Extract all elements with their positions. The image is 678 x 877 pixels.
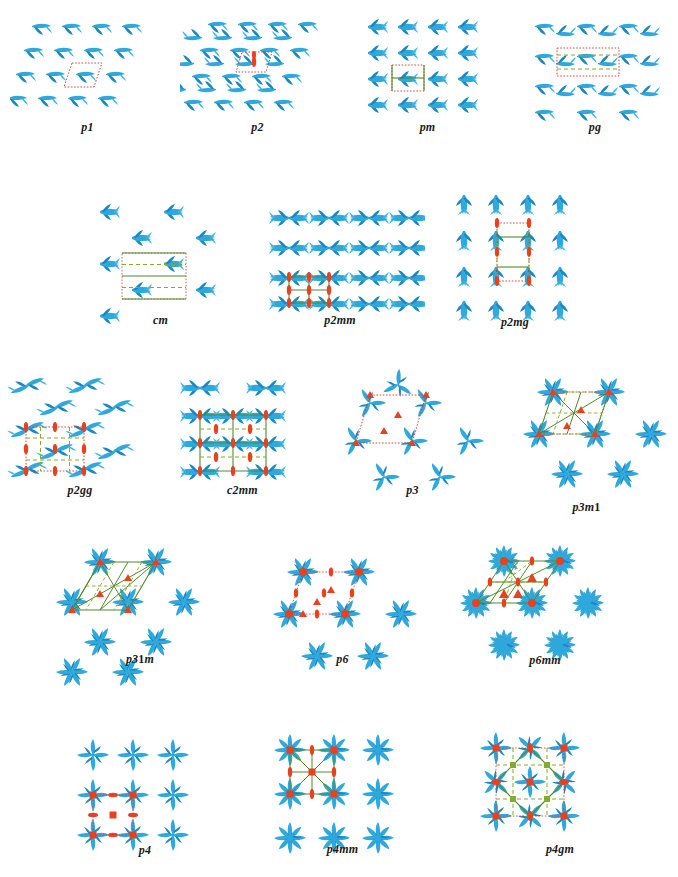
panel-caption-pm: pm <box>350 120 505 135</box>
panel-p2gg: p2gg <box>0 365 160 510</box>
panel-p31m: p31m <box>40 540 240 690</box>
unit-cell-p3 <box>356 395 426 443</box>
motif-lattice-p2 <box>180 22 318 111</box>
panel-p2mg: p2mg <box>435 175 595 335</box>
panel-p4mm: p4mm <box>250 720 435 875</box>
panel-p3m1: p3m1 <box>495 360 678 510</box>
panel-caption-p31m: p31m <box>40 652 240 667</box>
panel-p2: p2 <box>180 8 335 148</box>
motif-lattice-p1 <box>10 24 142 107</box>
panel-caption-p6: p6 <box>255 652 430 667</box>
panel-caption-cm: cm <box>78 313 243 328</box>
motif-lattice-p2mg <box>456 195 568 321</box>
panel-caption-p2mm: p2mm <box>255 313 425 328</box>
motif-lattice-pm <box>368 19 478 113</box>
panel-p4gm: p4gm <box>460 720 660 875</box>
motif-lattice-p31m <box>56 544 200 690</box>
rotation-centers-p3 <box>352 391 430 446</box>
panel-p6mm: p6mm <box>440 535 650 690</box>
panel-caption-p3m1: p3m1 <box>495 500 678 515</box>
unit-cell-pg <box>557 48 619 76</box>
panel-pg: pg <box>515 8 675 148</box>
panel-p3: p3 <box>330 365 495 510</box>
motif-lattice-p2mm <box>269 210 425 312</box>
panel-caption-p1: p1 <box>10 120 165 135</box>
panel-caption-c2mm: c2mm <box>160 483 325 498</box>
panel-caption-p6mm: p6mm <box>440 653 650 668</box>
panel-caption-p3: p3 <box>330 483 495 498</box>
panel-p6: p6 <box>255 540 430 690</box>
panel-c2mm: c2mm <box>160 365 325 510</box>
panel-p1: p1 <box>10 8 165 148</box>
motif-lattice-pg <box>535 24 660 121</box>
mirror-lines-cm <box>122 253 186 299</box>
panel-p4: p4 <box>55 725 235 875</box>
panel-p2mm: p2mm <box>255 185 425 335</box>
panel-caption-p4gm: p4gm <box>460 842 660 857</box>
panel-cm: cm <box>78 185 243 335</box>
panel-pm: pm <box>350 8 505 148</box>
panel-caption-pg: pg <box>515 120 675 135</box>
motif-lattice-p3 <box>341 365 484 492</box>
panel-caption-p2gg: p2gg <box>0 483 160 498</box>
panel-caption-p4: p4 <box>55 843 235 858</box>
panel-caption-p2: p2 <box>180 120 335 135</box>
mirror-lines-p2mg <box>497 237 529 267</box>
panel-caption-p2mg: p2mg <box>435 315 595 330</box>
mirror-lines-pm <box>392 65 424 91</box>
wallpaper-groups-figure: p1 <box>0 0 678 877</box>
rotation-centers-p2 <box>252 51 256 67</box>
panel-caption-p4mm: p4mm <box>250 842 435 857</box>
